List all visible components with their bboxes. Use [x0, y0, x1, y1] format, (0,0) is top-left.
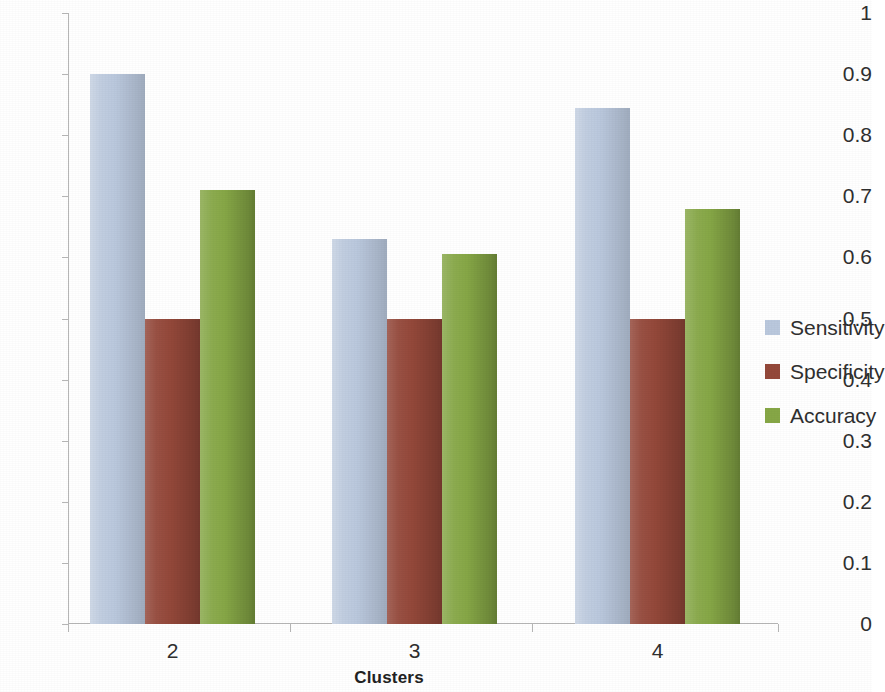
- bar-sensitivity-cluster-3: [332, 239, 387, 624]
- y-axis-tick-label: 0.1: [818, 552, 872, 573]
- y-axis-tick-label: 0.2: [818, 491, 872, 512]
- x-axis-tick-label: 2: [128, 640, 218, 662]
- x-axis-tick: [68, 624, 69, 632]
- y-axis-tick-label: 0.9: [818, 63, 872, 84]
- bar-accuracy-cluster-3: [442, 254, 497, 624]
- legend-label: Accuracy: [790, 405, 876, 426]
- bar-specificity-cluster-3: [387, 319, 442, 625]
- x-axis-tick: [778, 624, 779, 632]
- y-axis-tick-label: 0.8: [818, 124, 872, 145]
- legend-item-sensitivity[interactable]: Sensitivity: [765, 305, 885, 349]
- y-axis-tick-label: 1: [818, 2, 872, 23]
- bar-specificity-cluster-4: [630, 319, 685, 625]
- legend-swatch-icon: [765, 408, 780, 423]
- plot-area: [68, 13, 778, 624]
- x-axis-tick-label: 4: [613, 640, 703, 662]
- x-axis-tick-label: 3: [370, 640, 460, 662]
- x-axis-tick: [290, 624, 291, 632]
- bar-sensitivity-cluster-2: [90, 74, 145, 624]
- legend-item-accuracy[interactable]: Accuracy: [765, 393, 885, 437]
- bar-specificity-cluster-2: [145, 319, 200, 625]
- y-axis-tick-label: 0.6: [818, 246, 872, 267]
- chart-legend: SensitivitySpecificityAccuracy: [765, 305, 885, 437]
- x-axis-title: Clusters: [0, 668, 778, 688]
- legend-label: Specificity: [790, 361, 885, 382]
- x-axis-tick: [532, 624, 533, 632]
- bar-accuracy-cluster-2: [200, 190, 255, 624]
- bar-sensitivity-cluster-4: [575, 108, 630, 624]
- y-axis-tick-label: 0.7: [818, 185, 872, 206]
- bar-accuracy-cluster-4: [685, 209, 740, 624]
- legend-swatch-icon: [765, 320, 780, 335]
- legend-label: Sensitivity: [790, 317, 885, 338]
- legend-item-specificity[interactable]: Specificity: [765, 349, 885, 393]
- legend-swatch-icon: [765, 364, 780, 379]
- y-axis-tick-label: 0: [818, 613, 872, 634]
